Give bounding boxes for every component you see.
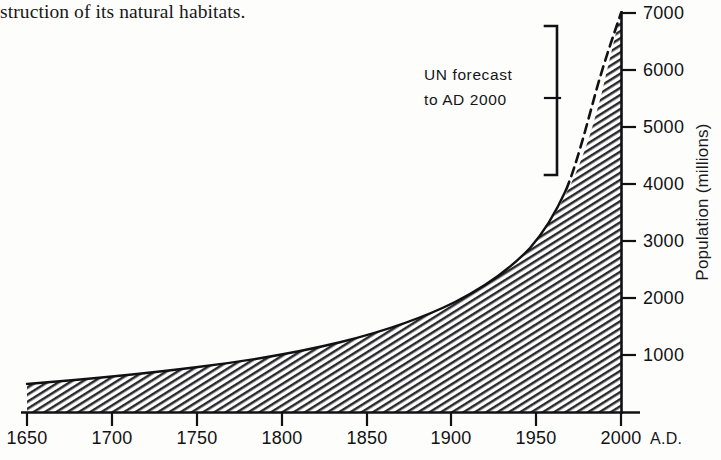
x-tick-label-1800: 1800 <box>261 428 302 449</box>
x-tick-label-1700: 1700 <box>91 428 132 449</box>
y-tick-label-1000: 1000 <box>643 345 684 366</box>
y-tick-label-6000: 6000 <box>643 60 684 81</box>
x-tick-label-1950: 1950 <box>515 428 556 449</box>
x-tick-label-1850: 1850 <box>346 428 387 449</box>
y-axis-ticks <box>621 13 636 355</box>
x-tick-label-1750: 1750 <box>176 428 217 449</box>
y-tick-label-7000: 7000 <box>643 3 684 24</box>
y-tick-label-3000: 3000 <box>643 231 684 252</box>
chart-svg <box>0 0 721 460</box>
x-tick-label-2000: 2000 <box>600 428 641 449</box>
un-forecast-bracket-icon <box>545 26 560 175</box>
un-forecast-annotation: UN forecast to AD 2000 <box>424 62 544 112</box>
x-axis-ticks <box>27 412 621 426</box>
y-tick-label-4000: 4000 <box>643 174 684 195</box>
y-tick-label-2000: 2000 <box>643 288 684 309</box>
y-tick-label-5000: 5000 <box>643 117 684 138</box>
un-forecast-annotation-line2: to AD 2000 <box>424 87 544 112</box>
x-tick-label-1900: 1900 <box>430 428 471 449</box>
x-tick-label-1650: 1650 <box>6 428 47 449</box>
x-axis-suffix-label: A.D. <box>650 430 682 448</box>
population-growth-figure: 1650 1700 1750 1800 1850 1900 1950 2000 … <box>0 0 721 460</box>
un-forecast-annotation-line1: UN forecast <box>424 62 544 87</box>
